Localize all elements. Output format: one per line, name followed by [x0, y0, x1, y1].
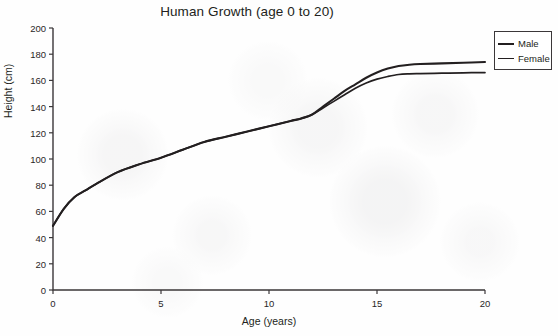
x-tick-label: 0 [50, 298, 55, 309]
y-tick-label: 100 [20, 154, 46, 165]
plot-canvas [0, 0, 558, 336]
y-tick-label: 120 [20, 127, 46, 138]
x-tick-label: 5 [158, 298, 163, 309]
axis-spines [53, 28, 485, 290]
y-tick-label: 160 [20, 75, 46, 86]
y-tick-label: 140 [20, 101, 46, 112]
legend-item-male[interactable]: Male [498, 36, 548, 51]
y-tick-label: 180 [20, 49, 46, 60]
x-tick-label: 10 [264, 298, 275, 309]
legend-swatch-male-icon [498, 43, 514, 45]
y-tick-label: 40 [20, 232, 46, 243]
y-tick-label: 0 [20, 285, 46, 296]
chart-legend: Male Female [494, 31, 552, 70]
y-tick-label: 80 [20, 180, 46, 191]
x-tick-label: 15 [372, 298, 383, 309]
legend-item-female[interactable]: Female [498, 51, 548, 66]
x-axis-title: Age (years) [53, 315, 485, 327]
y-tick-label: 20 [20, 258, 46, 269]
y-axis-title: Height (cm) [2, 64, 14, 118]
series-line-female [53, 73, 485, 226]
y-tick-label: 60 [20, 206, 46, 217]
legend-swatch-female-icon [498, 58, 514, 59]
x-tick-label: 20 [480, 298, 491, 309]
y-tick-label: 200 [20, 23, 46, 34]
legend-label-female: Female [518, 54, 550, 64]
chart-figure: Human Growth (age 0 to 20) 0204060801001… [0, 0, 558, 336]
series-line-male [53, 62, 485, 226]
legend-label-male: Male [518, 39, 539, 49]
